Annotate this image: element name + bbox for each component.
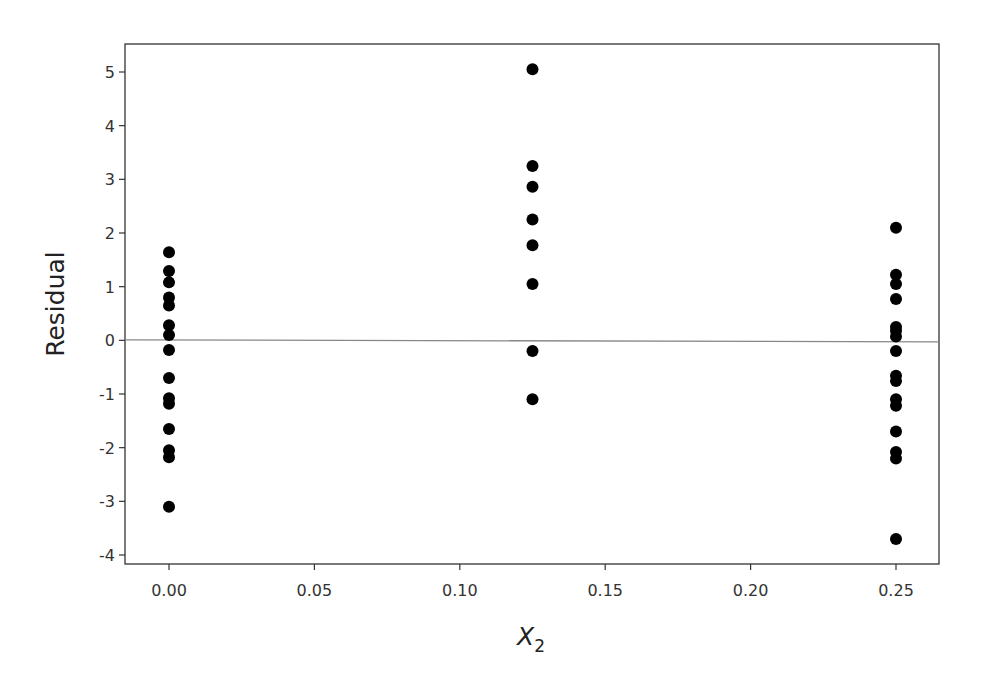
data-point bbox=[163, 265, 175, 277]
x-axis-title: X2 bbox=[515, 622, 545, 656]
y-tick-label: 1 bbox=[105, 278, 115, 297]
plot-area bbox=[125, 44, 939, 564]
data-point bbox=[890, 533, 902, 545]
data-point bbox=[163, 423, 175, 435]
data-point bbox=[163, 299, 175, 311]
data-point bbox=[890, 426, 902, 438]
x-tick-label: 0.15 bbox=[587, 581, 623, 600]
data-point bbox=[890, 331, 902, 343]
x-tick-label: 0.20 bbox=[733, 581, 769, 600]
y-axis-title: Residual bbox=[41, 251, 70, 357]
data-point bbox=[527, 160, 539, 172]
x-tick-label: 0.00 bbox=[151, 581, 187, 600]
data-point bbox=[890, 293, 902, 305]
data-point bbox=[163, 344, 175, 356]
y-tick-label: -2 bbox=[99, 439, 115, 458]
data-point bbox=[890, 278, 902, 290]
y-tick-label: 5 bbox=[105, 63, 115, 82]
y-tick-label: 2 bbox=[105, 224, 115, 243]
x-tick-label: 0.25 bbox=[878, 581, 914, 600]
x-tick-label: 0.05 bbox=[297, 581, 333, 600]
data-point bbox=[527, 278, 539, 290]
data-point bbox=[890, 375, 902, 387]
data-point bbox=[163, 372, 175, 384]
residual-scatter-plot: -4-3-2-1012345 0.000.050.100.150.200.25 … bbox=[0, 0, 981, 684]
y-tick-label: 3 bbox=[105, 170, 115, 189]
data-point bbox=[527, 393, 539, 405]
data-point bbox=[163, 501, 175, 513]
y-tick-label: -1 bbox=[99, 385, 115, 404]
data-point bbox=[527, 239, 539, 251]
data-point bbox=[163, 276, 175, 288]
data-point bbox=[527, 214, 539, 226]
data-point bbox=[890, 222, 902, 234]
data-point bbox=[890, 345, 902, 357]
y-tick-label: 4 bbox=[105, 117, 115, 136]
y-tick-label: 0 bbox=[105, 331, 115, 350]
data-point bbox=[890, 452, 902, 464]
data-point bbox=[527, 181, 539, 193]
data-point bbox=[163, 398, 175, 410]
data-point bbox=[163, 329, 175, 341]
y-tick-label: -4 bbox=[99, 546, 115, 565]
y-tick-label: -3 bbox=[99, 492, 115, 511]
data-point bbox=[527, 63, 539, 75]
y-axis: -4-3-2-1012345 bbox=[99, 63, 125, 565]
x-tick-label: 0.10 bbox=[442, 581, 478, 600]
data-point bbox=[890, 400, 902, 412]
data-point bbox=[163, 246, 175, 258]
data-point bbox=[527, 345, 539, 357]
x-axis: 0.000.050.100.150.200.25 bbox=[151, 564, 914, 600]
data-point bbox=[163, 451, 175, 463]
